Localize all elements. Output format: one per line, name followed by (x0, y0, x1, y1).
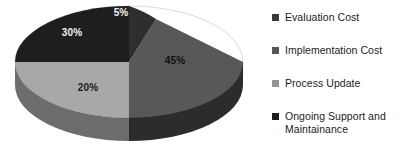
pie-data-label-evaluation-cost: 5% (114, 7, 129, 18)
legend-label: Process Update (285, 77, 360, 90)
pie-data-label-implementation-cost: 45% (165, 55, 185, 66)
legend-item-evaluation-cost[interactable]: Evaluation Cost (272, 11, 359, 24)
pie-data-label-ongoing-support-and-maintainance: 30% (62, 27, 82, 38)
legend-item-ongoing-support-and-maintainance[interactable]: Ongoing Support and Maintainance (272, 110, 386, 136)
pie-data-label-process-update: 20% (78, 82, 98, 93)
legend-label: Ongoing Support and Maintainance (285, 110, 386, 136)
legend-swatch-icon (272, 47, 279, 54)
pie-plot-area: 5% 45% 20% 30% (0, 0, 258, 147)
legend-item-process-update[interactable]: Process Update (272, 77, 360, 90)
pie-chart-figure: 5% 45% 20% 30% Evaluation Cost Implement… (0, 0, 400, 147)
legend-item-implementation-cost[interactable]: Implementation Cost (272, 44, 382, 57)
pie-chart-svg: 5% 45% 20% 30% (0, 0, 258, 147)
legend-label: Implementation Cost (285, 44, 382, 57)
legend-label: Evaluation Cost (285, 11, 359, 24)
chart-legend: Evaluation Cost Implementation Cost Proc… (272, 11, 400, 141)
legend-swatch-icon (272, 80, 279, 87)
legend-swatch-icon (272, 14, 279, 21)
legend-swatch-icon (272, 113, 279, 120)
